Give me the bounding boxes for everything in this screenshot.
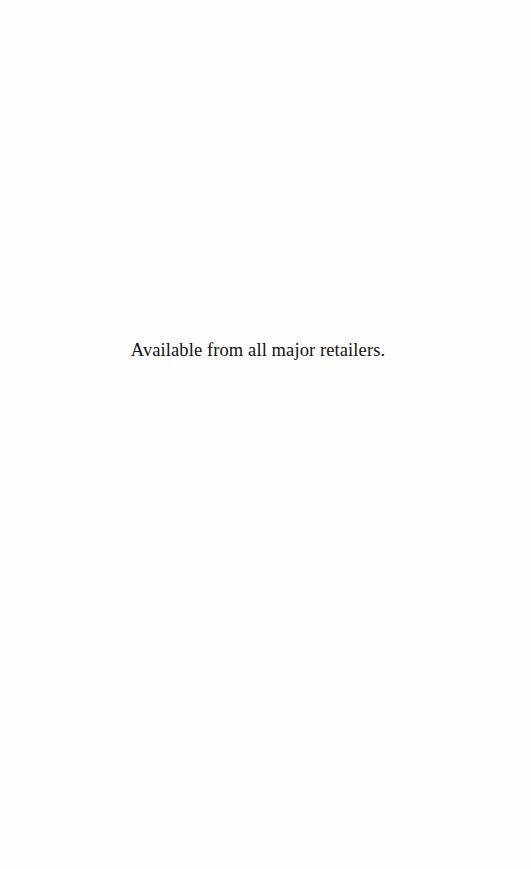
availability-notice: Available from all major retailers. — [0, 340, 516, 361]
document-page: Available from all major retailers. — [0, 0, 531, 869]
